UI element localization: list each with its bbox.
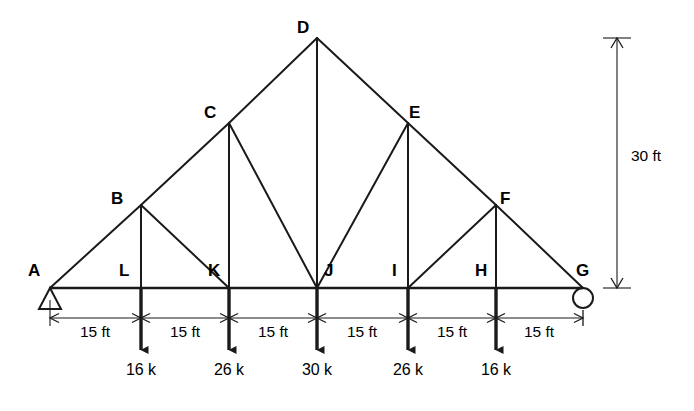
member-E-F bbox=[408, 123, 496, 205]
dim-label-span-6: 15 ft bbox=[499, 324, 579, 340]
node-label-H: H bbox=[475, 262, 487, 279]
member-B-C bbox=[141, 123, 229, 205]
load-label-J: 30 k bbox=[277, 362, 357, 378]
load-label-I: 26 k bbox=[368, 362, 448, 378]
truss-members bbox=[50, 38, 583, 288]
node-label-A: A bbox=[28, 262, 40, 279]
node-label-B: B bbox=[111, 190, 123, 207]
node-label-E: E bbox=[409, 104, 421, 121]
node-label-F: F bbox=[500, 190, 511, 207]
node-label-G: G bbox=[576, 262, 589, 279]
member-C-D bbox=[229, 38, 317, 123]
member-C-J bbox=[229, 123, 317, 288]
load-label-H: 16 k bbox=[456, 362, 536, 378]
roller-support-icon bbox=[573, 288, 593, 308]
truss-drawing-canvas bbox=[0, 0, 694, 411]
dim-label-height: 30 ft bbox=[631, 148, 691, 164]
dim-label-span-3: 15 ft bbox=[233, 324, 313, 340]
truss-diagram: A L K J I H G B C D E F 16 k 26 k 30 k 2… bbox=[0, 0, 694, 411]
dim-label-span-1: 15 ft bbox=[55, 324, 135, 340]
load-label-K: 26 k bbox=[189, 362, 269, 378]
node-label-I: I bbox=[392, 262, 397, 279]
member-F-G bbox=[496, 205, 583, 288]
node-label-K: K bbox=[208, 262, 220, 279]
node-label-C: C bbox=[204, 104, 216, 121]
node-label-D: D bbox=[297, 19, 309, 36]
dim-label-span-5: 15 ft bbox=[412, 324, 492, 340]
load-label-L: 16 k bbox=[101, 362, 181, 378]
dim-label-span-2: 15 ft bbox=[145, 324, 225, 340]
vertical-dimension-line bbox=[603, 38, 631, 288]
node-label-J: J bbox=[324, 262, 334, 279]
dim-label-span-4: 15 ft bbox=[322, 324, 402, 340]
node-label-L: L bbox=[119, 262, 130, 279]
member-D-E bbox=[317, 38, 408, 123]
